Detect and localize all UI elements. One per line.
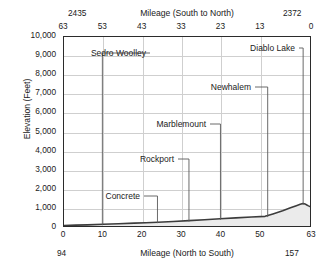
bottom-axis-tick-label: 40 (205, 230, 235, 239)
place-label: Concrete (0, 191, 140, 201)
place-label: Newhalem (0, 82, 251, 92)
place-label: Diablo Lake (0, 43, 295, 53)
top-axis-tick-label: 33 (166, 22, 196, 31)
y-axis-tick-label: 6,000 (0, 107, 56, 116)
top-axis-tick-label: 23 (205, 22, 235, 31)
y-axis-tick-label: 10,000 (0, 31, 56, 40)
profile-fill-area (64, 204, 310, 226)
bottom-axis-tick-label: 30 (166, 230, 196, 239)
bottom-axis-tick-label: 63 (296, 230, 323, 239)
top-axis-title: Mileage (South to North) (63, 8, 311, 18)
place-label: Marblemount (0, 119, 206, 129)
y-axis-tick-label: 3,000 (0, 165, 56, 174)
top-right-corner-label: 2372 (283, 8, 301, 18)
y-axis-tick-label: 8,000 (0, 69, 56, 78)
bottom-axis-tick-label: 20 (127, 230, 157, 239)
top-axis-tick-label: 13 (245, 22, 275, 31)
top-axis-tick-label: 53 (87, 22, 117, 31)
bottom-right-corner-label: 157 (285, 248, 299, 258)
bottom-axis-tick-label: 10 (87, 230, 117, 239)
top-axis-tick-label: 43 (127, 22, 157, 31)
bottom-axis-tick-label: 50 (245, 230, 275, 239)
bottom-axis-tick-label: 0 (48, 230, 78, 239)
place-label: Rockport (0, 154, 174, 164)
elevation-profile-chart: 2435 Mileage (South to North) 2372 63534… (0, 0, 323, 269)
top-axis-tick-label: 0 (296, 22, 323, 31)
y-axis-tick-label: 1,000 (0, 203, 56, 212)
bottom-axis-title: Mileage (North to South) (63, 248, 311, 258)
